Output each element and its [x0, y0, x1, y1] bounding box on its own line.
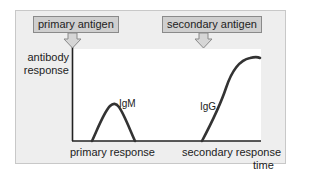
primary-antigen-label: primary antigen: [33, 16, 119, 33]
igm-label: IgM: [119, 97, 136, 110]
secondary-response-label: secondary response: [182, 146, 281, 159]
primary-antigen-arrow-icon: [64, 33, 81, 48]
igg-label: IgG: [200, 100, 216, 113]
y-axis-label-line2: response: [23, 64, 69, 77]
primary-response-label: primary response: [70, 146, 155, 159]
secondary-antigen-label: secondary antigen: [162, 16, 262, 33]
y-axis-label-line1: antibody: [23, 51, 69, 64]
x-axis-label: time: [253, 159, 274, 172]
secondary-antigen-arrow-icon: [195, 33, 212, 48]
